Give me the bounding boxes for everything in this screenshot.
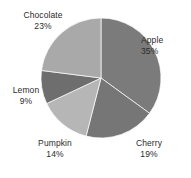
slice-label-cherry-name: Cherry	[122, 138, 176, 149]
slice-label-cherry-value: 19%	[122, 149, 176, 160]
slice-label-lemon: Lemon 9%	[2, 85, 50, 107]
slice-label-chocolate-name: Chocolate	[8, 10, 78, 21]
slice-label-apple-value: 35%	[141, 46, 187, 57]
pie-chart: Apple 35% Cherry 19% Pumpkin 14% Lemon 9…	[0, 0, 191, 178]
slice-label-apple: Apple 35%	[141, 35, 187, 57]
slice-label-pumpkin-name: Pumpkin	[24, 138, 86, 149]
slice-label-pumpkin-value: 14%	[24, 149, 86, 160]
slice-label-apple-name: Apple	[141, 35, 187, 46]
slice-label-chocolate-value: 23%	[8, 21, 78, 32]
slice-label-chocolate: Chocolate 23%	[8, 10, 78, 32]
slice-label-lemon-value: 9%	[2, 96, 50, 107]
slice-label-pumpkin: Pumpkin 14%	[24, 138, 86, 160]
slice-label-lemon-name: Lemon	[2, 85, 50, 96]
slice-label-cherry: Cherry 19%	[122, 138, 176, 160]
